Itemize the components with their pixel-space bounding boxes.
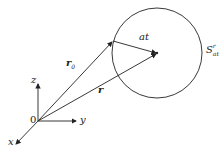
r0-vector (38, 42, 112, 121)
vector-diagram: z y x 0 r0 r at Srat (0, 0, 224, 153)
origin-label: 0 (30, 115, 36, 125)
center-point (156, 52, 158, 54)
x-axis-label: x (8, 137, 14, 147)
r0-subscript: 0 (71, 63, 75, 70)
sphere-subscript: at (213, 51, 219, 57)
at-vector (113, 41, 156, 53)
sphere-symbol: S (206, 44, 213, 55)
at-label: at (139, 32, 149, 42)
sphere-label: Srat (206, 45, 213, 55)
y-axis-label: y (80, 115, 86, 125)
r0-label: r0 (66, 58, 75, 70)
sphere-superscript: r (213, 43, 216, 49)
r-label: r (98, 85, 103, 95)
r-vector (38, 54, 156, 121)
z-axis-label: z (31, 75, 36, 85)
